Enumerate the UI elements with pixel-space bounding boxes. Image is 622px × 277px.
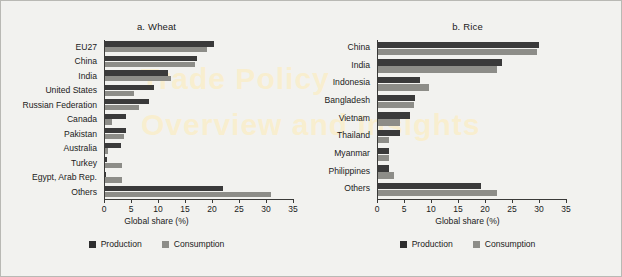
bar-production [378,130,400,136]
bar-production [105,157,107,162]
legend-swatch-production-icon [89,241,96,248]
bar-production [105,56,197,61]
category-label: Myanmar [334,146,370,160]
category-label: Thailand [337,128,370,142]
legend-item-production-rice: Production [400,239,453,249]
x-tick-mark [512,199,513,203]
x-tick-mark [266,199,267,203]
category-label: Indonesia [333,75,370,89]
bar-consumption [378,172,394,178]
bar-consumption [378,119,400,125]
bar-consumption [378,49,537,55]
bar-row [377,40,566,58]
bar-row [104,185,293,199]
category-labels-wheat: EU27ChinaIndiaUnited StatesRussian Feder… [1,40,101,199]
legend-swatch-consumption-icon [473,241,480,248]
panel-title-text-rice: Rice [463,21,482,32]
x-tick-label: 5 [402,204,407,214]
x-tick-mark [377,199,378,203]
bar-row [104,40,293,54]
bar-row [104,54,293,68]
bar-row [377,164,566,182]
category-label: Others [344,181,370,195]
category-label: Bangladesh [325,93,370,107]
panel-title-text-wheat: Wheat [148,21,176,32]
category-label: Turkey [71,156,97,170]
bar-rows-rice [377,40,566,199]
bar-row [377,111,566,129]
x-tick-label: 0 [375,204,380,214]
panel-title-wheat: a.Wheat [1,21,312,32]
legend-item-production-wheat: Production [89,239,142,249]
panel-number-b: b. [452,21,460,32]
category-label: EU27 [76,40,98,54]
bar-consumption [105,47,207,52]
x-tick-mark [566,199,567,203]
bar-consumption [378,190,497,196]
category-label: Pakistan [64,127,97,141]
x-axis-title-rice: Global share (%) [312,216,622,226]
legend-item-consumption-wheat: Consumption [162,239,225,249]
bar-production [378,183,481,189]
bar-row [377,146,566,164]
bar-production [378,95,415,101]
x-axis-line-rice [377,199,566,200]
bar-row [377,93,566,111]
chart-panel-rice: b.Rice ChinaIndiaIndonesiaBangladeshViet… [312,1,622,277]
x-tick-label: 10 [153,204,162,214]
panel-number-a: a. [137,21,145,32]
x-tick-label: 25 [507,204,516,214]
bar-row [377,128,566,146]
bar-consumption [105,119,112,124]
legend-label-consumption: Consumption [174,239,225,249]
bar-consumption [105,62,195,67]
x-tick-mark [458,199,459,203]
category-labels-rice: ChinaIndiaIndonesiaBangladeshVietnamThai… [312,40,374,199]
legend-wheat: Production Consumption [1,239,312,249]
bar-row [104,156,293,170]
bar-production [105,186,223,191]
bar-consumption [105,192,271,197]
bar-consumption [105,76,171,81]
x-tick-label: 30 [261,204,270,214]
bar-row [104,69,293,83]
bar-production [105,128,126,133]
x-tick-label: 35 [561,204,570,214]
category-label: China [75,54,97,68]
category-label: India [78,69,97,83]
bar-consumption [378,155,389,161]
x-tick-mark [485,199,486,203]
bar-row [104,141,293,155]
bar-row [104,127,293,141]
plot-area-wheat: 05101520253035 [104,40,293,200]
bar-production [378,148,389,154]
bar-production [378,165,389,171]
panel-title-rice: b.Rice [312,21,622,32]
x-tick-mark [431,199,432,203]
legend-rice: Production Consumption [312,239,622,249]
category-label: Others [71,185,97,199]
bar-row [377,75,566,93]
bar-production [105,70,168,75]
category-label: United States [45,83,97,97]
x-tick-label: 20 [480,204,489,214]
x-axis-line-wheat [104,199,293,200]
x-tick-label: 0 [102,204,107,214]
x-axis-title-wheat: Global share (%) [1,216,312,226]
x-tick-label: 35 [288,204,297,214]
bar-production [378,77,420,83]
bar-row [104,170,293,184]
bar-consumption [378,66,497,72]
bar-rows-wheat [104,40,293,199]
category-label: Philippines [328,164,370,178]
bar-consumption [105,105,139,110]
plot-area-rice: 05101520253035 [377,40,566,200]
bar-row [377,58,566,76]
bar-production [105,143,121,148]
figure-container: Trade Policy Overview and Insights a.Whe… [0,0,622,277]
x-tick-label: 20 [207,204,216,214]
bar-consumption [378,137,389,143]
bar-row [377,181,566,199]
x-tick-mark [239,199,240,203]
x-tick-label: 5 [129,204,134,214]
